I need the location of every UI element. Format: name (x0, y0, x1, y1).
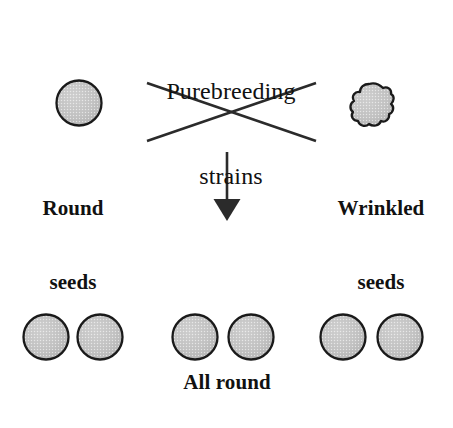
wrinkled-parent-seed (350, 83, 393, 126)
offspring-seed (229, 315, 274, 360)
wrinkled-seeds-label-line-1: Wrinkled (312, 196, 450, 221)
round-seeds-label-line-2: seeds (12, 270, 134, 295)
wrinkled-seeds-label-line-2: seeds (312, 270, 450, 295)
all-round-label: All round (125, 370, 329, 395)
round-parent-seed (57, 81, 102, 126)
round-seeds-label-line-1: Round (12, 196, 134, 221)
wrinkled-seeds-label: Wrinkled seeds (312, 146, 450, 344)
genetics-cross-diagram: Purebreeding strains Round seeds Wrinkle… (0, 0, 453, 428)
title-line-1: Purebreeding (106, 77, 356, 105)
round-seeds-label: Round seeds (12, 146, 134, 344)
offspring-seed (173, 315, 218, 360)
